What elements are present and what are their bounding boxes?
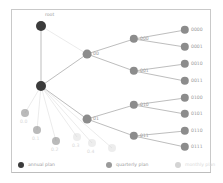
- tree-node-label-0111: 0111: [191, 145, 203, 150]
- tree-diagram-figure: root000100000101001100000001001000110100…: [0, 0, 223, 183]
- tree-node-label-0100: 0100: [191, 96, 203, 101]
- tree-node-00[interactable]: [83, 50, 92, 59]
- legend-swatch-icon: [18, 162, 24, 168]
- tree-node-label-0110: 0110: [191, 129, 203, 134]
- tree-node-0.5[interactable]: [108, 144, 116, 152]
- legend-item-2[interactable]: monthly plan: [175, 159, 215, 171]
- tree-node-label-011: 011: [140, 134, 149, 139]
- tree-node-label-0.1: 0.1: [32, 137, 39, 142]
- tree-node-label-0.3: 0.3: [72, 144, 79, 149]
- tree-node-label-root: root: [45, 13, 54, 18]
- legend-item-0[interactable]: annual plan: [18, 159, 55, 171]
- tree-node-label-010: 010: [140, 103, 149, 108]
- tree-node-label-0101: 0101: [191, 112, 203, 117]
- tree-node-root[interactable]: [36, 21, 46, 31]
- tree-node-label-0.2: 0.2: [51, 148, 58, 153]
- tree-node-label-0.0: 0.0: [20, 120, 27, 125]
- legend-label: annual plan: [28, 163, 55, 168]
- legend-label: quarterly plan: [116, 163, 148, 168]
- legend-swatch-icon: [175, 162, 181, 168]
- tree-node-label-0011: 0011: [191, 79, 203, 84]
- tree-node-label-00: 00: [93, 52, 99, 57]
- tree-node-label-01: 01: [93, 117, 99, 122]
- legend: annual planquarterly planmonthly plan: [18, 159, 206, 171]
- tree-node-01[interactable]: [83, 115, 92, 124]
- tree-node-label-001: 001: [140, 69, 149, 74]
- legend-item-1[interactable]: quarterly plan: [106, 159, 148, 171]
- tree-node-0.3[interactable]: [73, 133, 81, 141]
- tree-node-0.2[interactable]: [52, 137, 60, 145]
- tree-node-label-0001: 0001: [191, 45, 203, 50]
- legend-label: monthly plan: [185, 163, 215, 168]
- legend-divider: [12, 172, 211, 173]
- tree-node-0.4[interactable]: [88, 139, 96, 147]
- tree-node-label-000: 000: [140, 37, 149, 42]
- tree-node-label-0010: 0010: [191, 62, 203, 67]
- tree-node-label-0.4: 0.4: [87, 150, 94, 155]
- tree-node-0[interactable]: [36, 81, 46, 91]
- tree-node-label-0000: 0000: [191, 28, 203, 33]
- tree-node-0.0[interactable]: [21, 109, 29, 117]
- tree-node-0.1[interactable]: [33, 126, 41, 134]
- legend-swatch-icon: [106, 162, 112, 168]
